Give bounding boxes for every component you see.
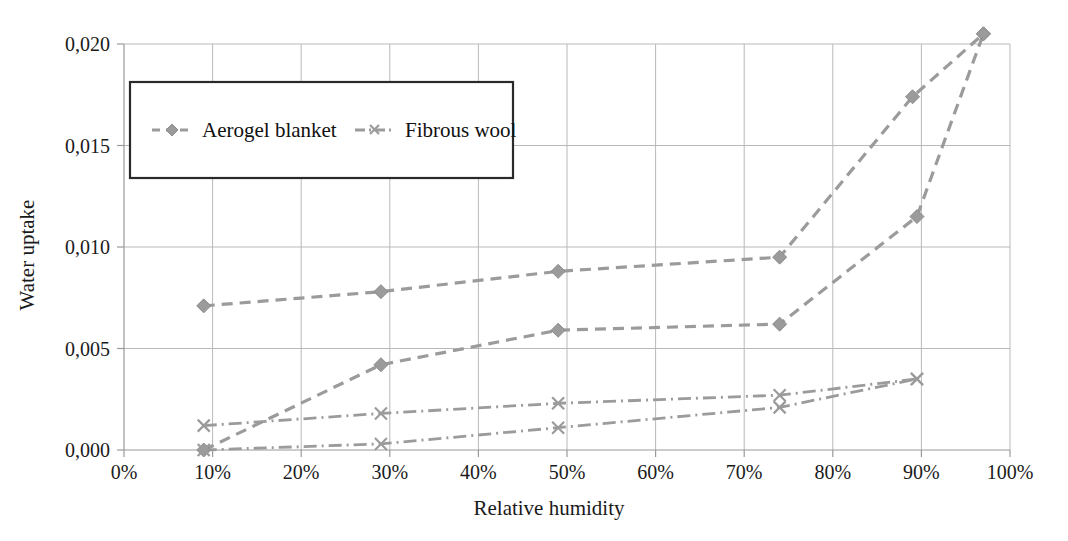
- y-tick-label: 0,005: [65, 338, 110, 360]
- x-tick-label: 80%: [814, 461, 851, 483]
- y-tick-label: 0,015: [65, 135, 110, 157]
- x-tick-label: 20%: [283, 461, 320, 483]
- x-tick-label: 40%: [460, 461, 497, 483]
- x-tick-label: 50%: [549, 461, 586, 483]
- x-tick-label: 100%: [987, 461, 1034, 483]
- y-tick-label: 0,020: [65, 33, 110, 55]
- x-tick-label: 90%: [903, 461, 940, 483]
- x-tick-label: 60%: [637, 461, 674, 483]
- water-uptake-line-chart: 0%10%20%30%40%50%60%70%80%90%100% 0,0000…: [0, 0, 1068, 541]
- y-tick-label: 0,010: [65, 236, 110, 258]
- legend-label-aerogel-blanket: Aerogel blanket: [202, 118, 337, 142]
- legend-label-fibrous-wool: Fibrous wool: [405, 118, 517, 142]
- x-tick-label: 30%: [371, 461, 408, 483]
- y-tick-label: 0,000: [65, 439, 110, 461]
- x-tick-label: 10%: [194, 461, 231, 483]
- y-axis-title: Water uptake: [15, 200, 39, 311]
- chart-page: 0%10%20%30%40%50%60%70%80%90%100% 0,0000…: [0, 0, 1068, 541]
- x-tick-label: 70%: [726, 461, 763, 483]
- x-axis-title: Relative humidity: [473, 496, 625, 520]
- legend: Aerogel blanket Fibrous wool: [130, 82, 517, 178]
- x-tick-label: 0%: [111, 461, 138, 483]
